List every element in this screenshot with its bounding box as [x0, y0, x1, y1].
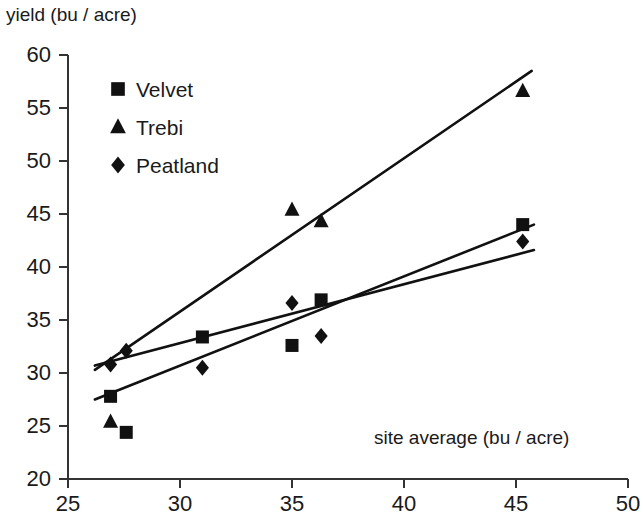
x-tick-label: 25 [46, 493, 90, 512]
y-tick-label: 55 [11, 97, 51, 119]
scatter-chart: yield (bu / acre) site average (bu / acr… [0, 0, 643, 512]
x-tick-label: 50 [606, 493, 643, 512]
legend-label-peatland: Peatland [136, 155, 219, 176]
y-tick-label: 50 [11, 150, 51, 172]
x-tick-label: 45 [494, 493, 538, 512]
plot-area [0, 0, 643, 512]
legend-markers [110, 82, 126, 173]
y-tick-label: 25 [11, 415, 51, 437]
legend-label-trebi: Trebi [136, 117, 183, 138]
x-tick-label: 30 [158, 493, 202, 512]
y-tick-label: 45 [11, 203, 51, 225]
x-tick-label: 35 [270, 493, 314, 512]
y-tick-label: 30 [11, 362, 51, 384]
y-tick-label: 40 [11, 256, 51, 278]
y-tick-label: 20 [11, 468, 51, 490]
x-tick-label: 40 [382, 493, 426, 512]
y-tick-label: 35 [11, 309, 51, 331]
legend-label-velvet: Velvet [136, 79, 193, 100]
y-tick-label: 60 [11, 44, 51, 66]
